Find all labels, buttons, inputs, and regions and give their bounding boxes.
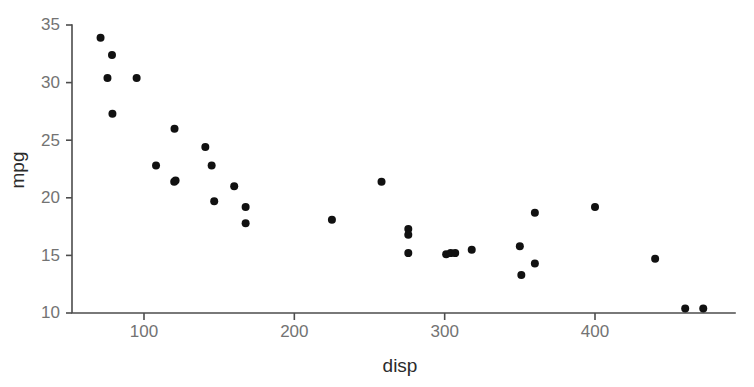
x-axis-ticks: 100200300400 — [130, 313, 609, 341]
data-point — [208, 162, 216, 170]
data-point — [404, 231, 412, 239]
data-point — [531, 259, 539, 267]
y-tick-label: 20 — [41, 188, 60, 207]
data-points-group — [97, 34, 708, 313]
plot-panel: 101520253035 100200300400 disp mpg — [0, 0, 754, 387]
y-tick-label: 15 — [41, 246, 60, 265]
data-point — [103, 74, 111, 82]
x-axis-title: disp — [383, 355, 418, 376]
data-point — [681, 304, 689, 312]
axis-lines — [72, 25, 735, 313]
data-point — [591, 203, 599, 211]
x-tick-label: 200 — [280, 322, 308, 341]
data-point — [242, 219, 250, 227]
y-tick-label: 35 — [41, 15, 60, 34]
data-point — [172, 177, 180, 185]
y-axis-ticks: 101520253035 — [41, 15, 72, 322]
data-point — [451, 249, 459, 257]
plot-svg: 101520253035 100200300400 disp mpg — [0, 0, 754, 387]
data-point — [97, 34, 105, 42]
data-point — [171, 125, 179, 133]
data-point — [516, 242, 524, 250]
data-point — [651, 255, 659, 263]
data-point — [531, 209, 539, 217]
data-point — [699, 304, 707, 312]
data-point — [133, 74, 141, 82]
y-tick-label: 10 — [41, 303, 60, 322]
data-point — [378, 178, 386, 186]
x-tick-label: 100 — [130, 322, 158, 341]
data-point — [328, 216, 336, 224]
scatter-plot-screenshot: 101520253035 100200300400 disp mpg — [0, 0, 754, 387]
data-point — [468, 246, 476, 254]
data-point — [108, 110, 116, 118]
data-point — [242, 203, 250, 211]
data-point — [230, 182, 238, 190]
data-point — [210, 197, 218, 205]
data-point — [201, 143, 209, 151]
data-point — [404, 249, 412, 257]
x-tick-label: 400 — [581, 322, 609, 341]
data-point — [152, 162, 160, 170]
y-axis-title: mpg — [7, 152, 28, 189]
axes-group — [72, 25, 735, 313]
x-tick-label: 300 — [430, 322, 458, 341]
y-tick-label: 30 — [41, 73, 60, 92]
y-tick-label: 25 — [41, 131, 60, 150]
data-point — [108, 51, 116, 59]
data-point — [517, 271, 525, 279]
